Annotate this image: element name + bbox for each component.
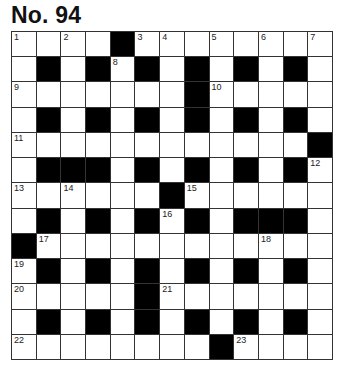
grid-cell[interactable] bbox=[111, 234, 135, 258]
grid-cell[interactable] bbox=[259, 183, 283, 207]
grid-cell[interactable]: 20 bbox=[12, 284, 36, 308]
grid-cell[interactable] bbox=[135, 133, 159, 157]
grid-cell[interactable] bbox=[234, 82, 258, 106]
grid-cell[interactable]: 22 bbox=[12, 335, 36, 359]
grid-cell[interactable] bbox=[86, 234, 110, 258]
grid-cell[interactable] bbox=[185, 234, 209, 258]
grid-cell[interactable] bbox=[86, 133, 110, 157]
grid-cell[interactable] bbox=[160, 82, 184, 106]
grid-cell[interactable] bbox=[210, 158, 234, 182]
grid-cell[interactable]: 4 bbox=[160, 32, 184, 56]
grid-cell[interactable] bbox=[61, 335, 85, 359]
grid-cell[interactable] bbox=[210, 310, 234, 334]
grid-cell[interactable] bbox=[234, 284, 258, 308]
grid-cell[interactable]: 1 bbox=[12, 32, 36, 56]
grid-cell[interactable] bbox=[12, 310, 36, 334]
grid-cell[interactable] bbox=[259, 259, 283, 283]
grid-cell[interactable] bbox=[111, 158, 135, 182]
grid-cell[interactable]: 8 bbox=[111, 57, 135, 81]
grid-cell[interactable] bbox=[135, 183, 159, 207]
grid-cell[interactable] bbox=[37, 183, 61, 207]
grid-cell[interactable]: 13 bbox=[12, 183, 36, 207]
grid-cell[interactable]: 2 bbox=[61, 32, 85, 56]
grid-cell[interactable] bbox=[86, 335, 110, 359]
grid-cell[interactable] bbox=[160, 133, 184, 157]
grid-cell[interactable] bbox=[160, 234, 184, 258]
grid-cell[interactable] bbox=[111, 108, 135, 132]
grid-cell[interactable] bbox=[284, 234, 308, 258]
grid-cell[interactable] bbox=[185, 133, 209, 157]
grid-cell[interactable] bbox=[111, 209, 135, 233]
grid-cell[interactable] bbox=[259, 284, 283, 308]
grid-cell[interactable] bbox=[210, 284, 234, 308]
grid-cell[interactable]: 18 bbox=[259, 234, 283, 258]
grid-cell[interactable] bbox=[308, 57, 332, 81]
grid-cell[interactable]: 17 bbox=[37, 234, 61, 258]
grid-cell[interactable] bbox=[86, 284, 110, 308]
grid-cell[interactable] bbox=[61, 310, 85, 334]
grid-cell[interactable] bbox=[86, 82, 110, 106]
grid-cell[interactable] bbox=[308, 108, 332, 132]
grid-cell[interactable]: 10 bbox=[210, 82, 234, 106]
grid-cell[interactable] bbox=[61, 57, 85, 81]
grid-cell[interactable] bbox=[37, 133, 61, 157]
grid-cell[interactable]: 23 bbox=[234, 335, 258, 359]
grid-cell[interactable]: 21 bbox=[160, 284, 184, 308]
grid-cell[interactable] bbox=[308, 284, 332, 308]
grid-cell[interactable]: 9 bbox=[12, 82, 36, 106]
grid-cell[interactable] bbox=[259, 158, 283, 182]
grid-cell[interactable] bbox=[259, 57, 283, 81]
grid-cell[interactable] bbox=[284, 133, 308, 157]
grid-cell[interactable] bbox=[160, 259, 184, 283]
grid-cell[interactable] bbox=[234, 234, 258, 258]
grid-cell[interactable] bbox=[111, 133, 135, 157]
grid-cell[interactable] bbox=[61, 82, 85, 106]
grid-cell[interactable] bbox=[185, 284, 209, 308]
grid-cell[interactable] bbox=[210, 57, 234, 81]
grid-cell[interactable] bbox=[210, 259, 234, 283]
grid-cell[interactable] bbox=[259, 133, 283, 157]
grid-cell[interactable]: 3 bbox=[135, 32, 159, 56]
grid-cell[interactable] bbox=[308, 310, 332, 334]
grid-cell[interactable]: 6 bbox=[259, 32, 283, 56]
grid-cell[interactable] bbox=[210, 183, 234, 207]
grid-cell[interactable]: 19 bbox=[12, 259, 36, 283]
grid-cell[interactable] bbox=[308, 335, 332, 359]
grid-cell[interactable] bbox=[111, 310, 135, 334]
grid-cell[interactable] bbox=[111, 259, 135, 283]
grid-cell[interactable] bbox=[61, 234, 85, 258]
grid-cell[interactable] bbox=[160, 158, 184, 182]
grid-cell[interactable] bbox=[61, 259, 85, 283]
grid-cell[interactable] bbox=[308, 259, 332, 283]
grid-cell[interactable] bbox=[86, 32, 110, 56]
grid-cell[interactable] bbox=[160, 335, 184, 359]
grid-cell[interactable] bbox=[61, 284, 85, 308]
grid-cell[interactable] bbox=[135, 234, 159, 258]
grid-cell[interactable] bbox=[259, 310, 283, 334]
grid-cell[interactable] bbox=[259, 335, 283, 359]
grid-cell[interactable] bbox=[37, 82, 61, 106]
grid-cell[interactable] bbox=[234, 183, 258, 207]
grid-cell[interactable] bbox=[284, 183, 308, 207]
grid-cell[interactable] bbox=[284, 335, 308, 359]
grid-cell[interactable] bbox=[308, 82, 332, 106]
grid-cell[interactable] bbox=[284, 32, 308, 56]
grid-cell[interactable] bbox=[37, 284, 61, 308]
grid-cell[interactable] bbox=[37, 335, 61, 359]
grid-cell[interactable] bbox=[61, 209, 85, 233]
grid-cell[interactable] bbox=[185, 32, 209, 56]
grid-cell[interactable] bbox=[234, 32, 258, 56]
grid-cell[interactable] bbox=[12, 209, 36, 233]
grid-cell[interactable] bbox=[135, 82, 159, 106]
grid-cell[interactable] bbox=[111, 82, 135, 106]
grid-cell[interactable] bbox=[160, 108, 184, 132]
grid-cell[interactable] bbox=[111, 284, 135, 308]
grid-cell[interactable] bbox=[308, 183, 332, 207]
grid-cell[interactable] bbox=[12, 108, 36, 132]
grid-cell[interactable] bbox=[111, 335, 135, 359]
grid-cell[interactable] bbox=[308, 209, 332, 233]
grid-cell[interactable]: 16 bbox=[160, 209, 184, 233]
grid-cell[interactable]: 14 bbox=[61, 183, 85, 207]
grid-cell[interactable] bbox=[259, 82, 283, 106]
grid-cell[interactable] bbox=[308, 234, 332, 258]
